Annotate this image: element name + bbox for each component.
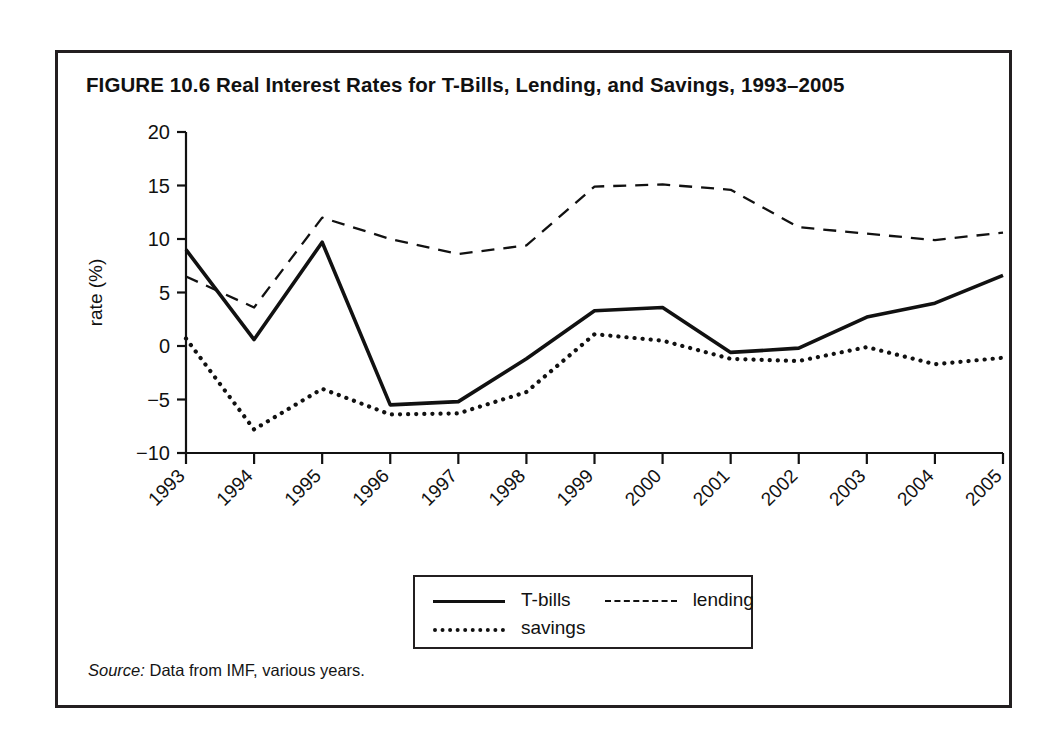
legend-item-lending[interactable]: lending [605,589,754,611]
x-tick-label: 1996 [348,465,393,510]
legend-item-savings[interactable]: savings [433,617,585,639]
y-tick-label: 5 [159,282,170,304]
series-line-savings [186,334,1003,429]
legend-label-t-bills: T-bills [521,589,571,611]
x-tick-label: 1997 [416,465,461,510]
x-tick-label: 2004 [893,465,938,510]
source-note: Source: Data from IMF, various years. [88,661,365,680]
legend-row-1: T-bills lending [433,589,754,611]
x-tick-label: 1998 [484,465,529,510]
y-tick-label: −5 [147,389,170,411]
x-tick-label: 2001 [689,465,734,510]
legend-item-t-bills[interactable]: T-bills [433,589,571,611]
legend-label-lending: lending [693,589,754,611]
series-line-lending [186,184,1003,307]
legend-row-2: savings [433,617,585,639]
x-tick-label: 2000 [621,465,666,510]
series-line-t-bills [186,242,1003,405]
chart-series-group [186,184,1003,429]
x-tick-label: 1999 [553,465,598,510]
chart-axis-labels: 20151050−5−10199319941995199619971998199… [85,121,1006,590]
x-tick-label: 2005 [961,465,1006,510]
legend-swatch-dotted-icon [433,622,505,634]
y-axis-title: rate (%) [85,259,106,327]
y-tick-label: 0 [159,335,170,357]
chart-axes [177,132,1003,464]
legend-swatch-solid-icon [433,594,505,606]
x-tick-label: 1995 [280,465,325,510]
y-tick-label: 10 [148,228,170,250]
legend-label-savings: savings [521,617,585,639]
y-tick-label: 15 [148,175,170,197]
x-tick-label: 2003 [825,465,870,510]
legend-swatch-dashed-icon [605,594,677,606]
x-tick-label: 1993 [144,465,189,510]
y-tick-label: −10 [136,442,170,464]
x-tick-label: 1994 [212,465,257,510]
x-tick-label: 2002 [757,465,802,510]
chart-legend: T-bills lending savings [413,575,753,649]
source-lead: Source: [88,661,145,679]
source-text: Data from IMF, various years. [145,661,365,679]
y-tick-label: 20 [148,121,170,143]
figure-frame: FIGURE 10.6 Real Interest Rates for T-Bi… [55,50,1012,708]
